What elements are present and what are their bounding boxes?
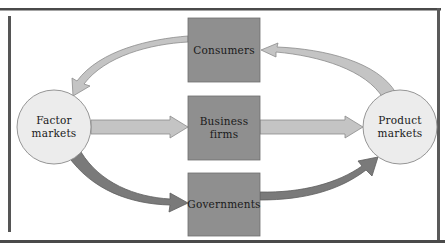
governments-text: Governments	[187, 198, 260, 211]
arrow-factor-markets-to-business-firms	[91, 116, 188, 138]
product-markets-label: Product markets	[363, 108, 437, 146]
frame-right-border	[437, 8, 440, 242]
consumers-text: Consumers	[193, 44, 255, 57]
arrow-factor-markets-to-governments	[68, 152, 188, 212]
business-firms-label: Business firms	[188, 96, 260, 160]
product-markets-line2: markets	[378, 127, 423, 140]
factor-markets-line1: Factor	[36, 114, 71, 127]
frame-left-bar	[8, 16, 11, 232]
arrow-governments-to-product-markets	[260, 157, 378, 200]
frame-bottom-border	[0, 240, 445, 243]
arrow-consumers-to-factor-markets	[72, 36, 188, 96]
frame-top-border	[0, 8, 441, 11]
factor-markets-line2: markets	[32, 127, 77, 140]
factor-markets-label: Factor markets	[17, 108, 91, 146]
consumers-label: Consumers	[188, 18, 260, 82]
circular-flow-diagram: Consumers Business firms Governments Fac…	[0, 0, 445, 246]
arrow-product-markets-to-consumers	[261, 43, 396, 98]
business-firms-line1: Business	[200, 115, 249, 128]
business-firms-line2: firms	[210, 128, 239, 141]
product-markets-line1: Product	[378, 114, 421, 127]
arrow-business-firms-to-product-markets	[260, 116, 363, 138]
governments-label: Governments	[186, 173, 262, 236]
